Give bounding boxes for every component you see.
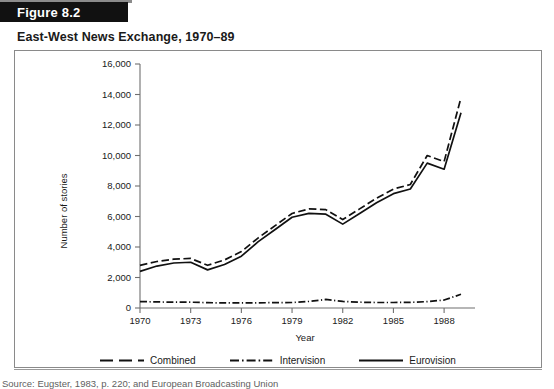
- frame-bottom-rule: [14, 369, 542, 370]
- legend-label-combined: Combined: [150, 355, 196, 366]
- chart-series-group: [140, 98, 461, 303]
- chart-legend: Combined Intervision Eurovision: [14, 352, 542, 368]
- line-dashed-icon: [100, 356, 144, 365]
- legend-label-eurovision: Eurovision: [409, 355, 456, 366]
- figure-badge-label: Figure 8.2: [17, 5, 80, 20]
- x-tick-label: 1976: [231, 315, 252, 326]
- legend-item-eurovision: Eurovision: [359, 355, 456, 366]
- legend-item-intervision: Intervision: [230, 355, 326, 366]
- line-dash-dot-icon: [230, 356, 274, 365]
- y-tick-label: 6,000: [107, 211, 131, 222]
- y-tick-label: 16,000: [102, 58, 131, 69]
- y-tick-label: 2,000: [107, 272, 131, 283]
- x-tick-label: 1973: [180, 315, 201, 326]
- figure-title: East-West News Exchange, 1970–89: [17, 30, 235, 44]
- legend-item-combined: Combined: [100, 355, 196, 366]
- y-tick-label: 8,000: [107, 180, 131, 191]
- y-axis-title: Number of stories: [58, 173, 69, 248]
- y-tick-label: 14,000: [102, 89, 131, 100]
- line-chart-plot: 02,0004,0006,0008,00010,00012,00014,0001…: [15, 51, 541, 367]
- y-tick-label: 4,000: [107, 241, 131, 252]
- x-axis-title: Year: [295, 332, 314, 343]
- figure-badge-bar: Figure 8.2: [0, 2, 128, 22]
- y-tick-label: 10,000: [102, 150, 131, 161]
- x-tick-label: 1988: [434, 315, 455, 326]
- series-line-intervision: [140, 294, 461, 303]
- y-axis: 02,0004,0006,0008,00010,00012,00014,0001…: [102, 58, 140, 313]
- x-tick-label: 1970: [129, 315, 150, 326]
- x-tick-label: 1985: [383, 315, 404, 326]
- x-tick-label: 1982: [332, 315, 353, 326]
- x-tick-label: 1979: [281, 315, 302, 326]
- legend-label-intervision: Intervision: [280, 355, 326, 366]
- y-tick-label: 12,000: [102, 119, 131, 130]
- y-tick-label: 0: [126, 302, 131, 313]
- figure-source: Source: Eugster, 1983, p. 220; and Europ…: [2, 378, 278, 389]
- chart-frame: 02,0004,0006,0008,00010,00012,00014,0001…: [14, 50, 542, 368]
- series-line-combined: [140, 98, 461, 266]
- x-axis: 1970197319761979198219851988: [129, 308, 475, 326]
- line-solid-icon: [359, 356, 403, 365]
- series-line-eurovision: [140, 113, 461, 272]
